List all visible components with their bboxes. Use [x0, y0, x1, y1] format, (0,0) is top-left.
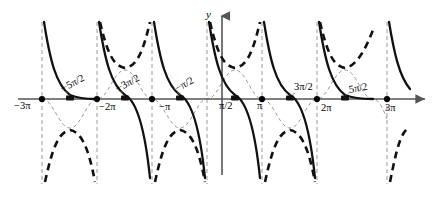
tick-label-3pi-over-2: 3π/2 — [294, 82, 313, 93]
math-figure: y −3π −5π/2 −2π −3π/2 −π −π/2 π/2 π 3π/2… — [0, 0, 437, 205]
tick-label-neg-3pi: −3π — [14, 101, 30, 112]
asymptote-lines — [42, 22, 387, 184]
tick-label-neg-2pi: −2π — [99, 102, 115, 113]
tick-label-pi-over-2: π/2 — [219, 101, 232, 112]
tick-label-neg-pi: −π — [159, 102, 170, 113]
tick-label-2pi: 2π — [321, 103, 332, 114]
y-axis-label: y — [206, 9, 211, 20]
tick-label-pi: π — [257, 101, 262, 112]
tick-label-3pi: 3π — [385, 103, 396, 114]
